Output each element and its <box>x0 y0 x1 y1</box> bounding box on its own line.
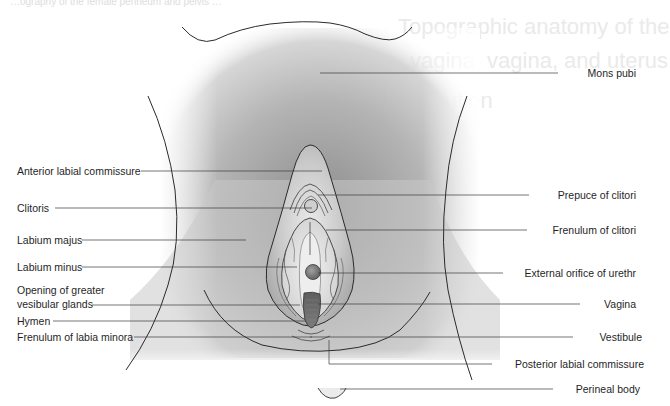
label-labium-minus: Labium minus <box>17 261 82 273</box>
perineal-body-shape <box>318 388 346 398</box>
label-external-urethral-orifice: External orifice of urethr <box>525 267 636 279</box>
label-opening-greater-vestibular-glands-line1: Opening of greater <box>17 284 105 296</box>
label-hymen: Hymen <box>17 315 50 327</box>
label-clitoris: Clitoris <box>17 202 49 214</box>
label-labium-majus: Labium majus <box>17 234 82 246</box>
label-frenulum-clitoris: Frenulum of clitori <box>553 224 636 236</box>
clitoris-glans <box>305 200 318 213</box>
label-perineal-body: Perineal body <box>576 383 640 395</box>
urethral-orifice <box>306 265 321 280</box>
label-anterior-labial-commissure: Anterior labial commissure <box>17 165 141 177</box>
label-frenulum-labia-minora: Frenulum of labia minora <box>17 331 133 343</box>
label-vestibule: Vestibule <box>599 331 642 343</box>
label-mons-pubis: Mons pubi <box>588 67 636 79</box>
label-vagina: Vagina <box>604 298 636 310</box>
label-posterior-labial-commissure: Posterior labial commissure <box>515 358 644 370</box>
label-opening-greater-vestibular-glands-line2: vesibular glands <box>17 298 93 310</box>
label-prepuce-clitoris: Prepuce of clitori <box>558 189 636 201</box>
